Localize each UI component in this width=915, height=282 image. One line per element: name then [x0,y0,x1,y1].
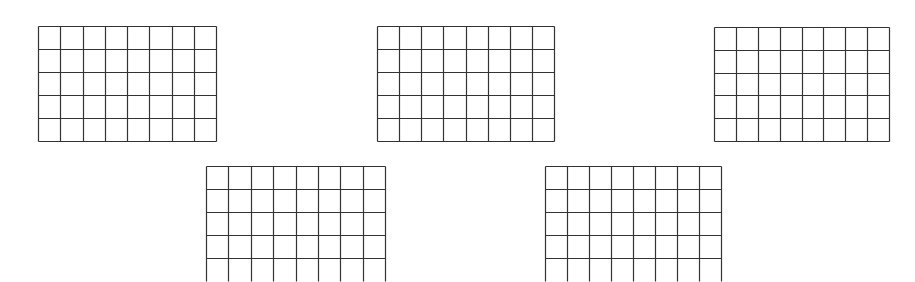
grid-1 [38,26,217,142]
grid-5 [545,166,722,282]
grid-3 [714,27,890,142]
grid-4 [206,166,386,282]
grid-2 [377,26,555,142]
